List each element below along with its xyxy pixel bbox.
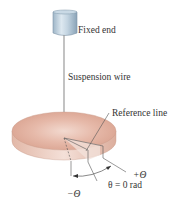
suspension-wire-label: Suspension wire: [68, 72, 131, 82]
disc: [12, 112, 116, 160]
fixed-end-label: Fixed end: [78, 25, 116, 35]
reference-line-label: Reference line: [112, 108, 167, 118]
theta-zero-label: θ = 0 rad: [108, 180, 142, 190]
minus-theta-label: −Θ: [67, 189, 80, 199]
fixed-end-cylinder: [53, 10, 77, 36]
torsion-pendulum-diagram: Fixed end Suspension wire Reference line…: [0, 0, 189, 208]
theta-arc: [73, 166, 111, 178]
plus-theta-label: +Θ: [133, 170, 146, 180]
